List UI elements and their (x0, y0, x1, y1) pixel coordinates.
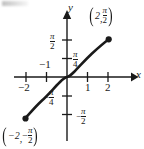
fraction-denominator: 4 (49, 97, 54, 107)
x-axis-label: x (136, 69, 141, 80)
paren-open: ( (89, 6, 93, 25)
x-tick-label-2: 2 (105, 82, 111, 93)
paren-close: ) (108, 6, 112, 25)
fraction-denominator: 2 (81, 116, 86, 126)
paren-close: ) (34, 126, 38, 145)
fraction-denominator: 2 (50, 41, 55, 51)
paren-open: ( (2, 126, 6, 145)
fraction-numerator: π (50, 32, 55, 41)
x-tick-label--1: −1 (39, 59, 51, 70)
endpoint-dot-upper-right (106, 36, 112, 42)
graph-figure: y x −2 −1 1 2 π 2 π 4 − π 4 − π 2 ( 2 , (0, 0, 144, 149)
y-tick-label-neg-pi-over-4: − π 4 (44, 88, 54, 107)
fraction-denominator: 2 (103, 15, 108, 25)
endpoint-dot-lower-left (22, 115, 28, 121)
y-axis-label: y (68, 2, 73, 13)
x-tick-label-1: 1 (85, 82, 91, 93)
fraction-denominator: 2 (28, 135, 33, 145)
fraction-numerator: π (103, 6, 108, 15)
y-tick-label-pi-over-2: π 2 (50, 32, 55, 51)
y-tick-label-pi-over-4: π 4 (73, 50, 78, 69)
fraction-denominator: 4 (73, 59, 78, 69)
point-label-lower-left: ( −2 , − π 2 ) (1, 126, 39, 145)
point-x-value: −2 (8, 131, 20, 141)
x-tick-label--2: −2 (18, 82, 30, 93)
fraction-numerator: π (81, 107, 86, 116)
point-label-upper-right: ( 2 , π 2 ) (88, 6, 114, 25)
fraction-numerator: π (73, 50, 78, 59)
fraction-numerator: π (28, 126, 33, 135)
y-tick-label-neg-pi-over-2: − π 2 (76, 107, 86, 126)
fraction-numerator: π (49, 88, 54, 97)
